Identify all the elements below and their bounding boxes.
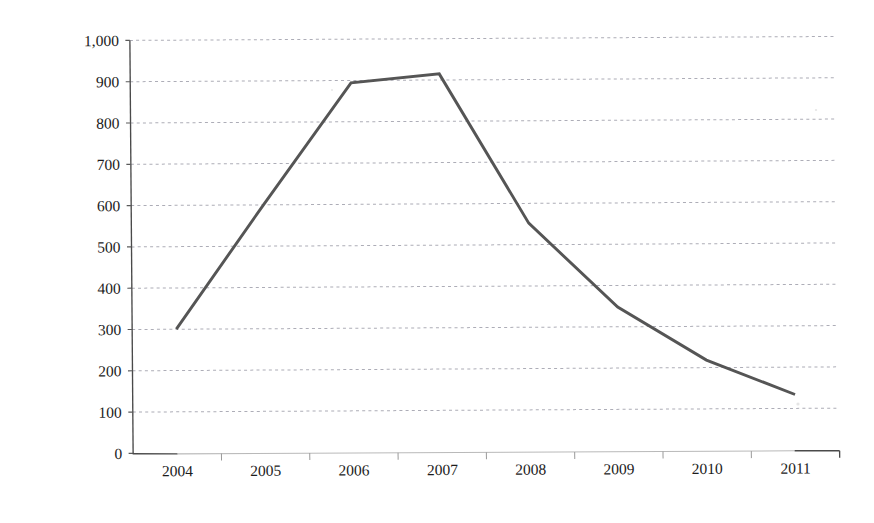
y-axis-tick-label: 800 [96, 114, 120, 131]
x-axis-line-left [133, 453, 178, 454]
y-axis-tick-label: 0 [114, 445, 122, 462]
x-axis-tick-label: 2006 [338, 461, 369, 478]
y-axis-tick-label: 300 [98, 321, 122, 338]
y-axis-tick-label: 700 [97, 156, 121, 173]
y-axis-tick-label: 1,000 [84, 32, 119, 49]
x-axis-tick-label: 2007 [427, 461, 458, 478]
y-axis-tick-label: 900 [96, 73, 120, 90]
y-axis-tick-label: 200 [98, 362, 122, 379]
y-axis-tick-label: 600 [97, 197, 121, 214]
chart-canvas: 01002003004005006007008009001,000 200420… [0, 0, 874, 523]
y-axis-tick-label: 400 [98, 280, 122, 297]
y-axis-tick-label: 500 [97, 238, 121, 255]
x-axis-tick-label: 2004 [162, 462, 193, 479]
x-axis-tick-label: 2011 [780, 459, 811, 476]
x-axis-tick-label: 2008 [515, 461, 546, 478]
line-chart-figure: 01002003004005006007008009001,000 200420… [0, 0, 874, 523]
x-axis-tick-label: 2009 [603, 460, 634, 477]
x-axis-line-right [795, 450, 840, 451]
y-axis-tick-label: 100 [98, 404, 122, 421]
x-axis-tick-label: 2005 [250, 462, 281, 479]
x-axis-tick-label: 2010 [692, 460, 723, 477]
